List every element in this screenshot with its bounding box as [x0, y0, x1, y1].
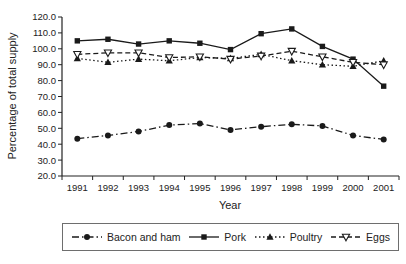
data-point-marker — [381, 136, 387, 142]
y-tick-label: 90.0 — [38, 59, 57, 70]
data-point-marker — [75, 38, 80, 43]
x-tick-label: 2000 — [342, 182, 363, 193]
x-tick-label: 1998 — [281, 182, 302, 193]
data-point-marker — [136, 41, 141, 46]
data-point-marker — [167, 38, 172, 43]
data-point-marker — [166, 55, 173, 62]
data-point-marker — [258, 124, 264, 130]
data-point-marker — [381, 83, 386, 88]
data-point-marker — [319, 123, 325, 129]
y-tick-label: 20.0 — [38, 170, 57, 181]
data-point-marker — [166, 122, 172, 128]
x-tick-label: 1993 — [128, 182, 149, 193]
legend-label: Bacon and ham — [107, 231, 181, 243]
data-point-marker — [289, 121, 295, 127]
series-bacon-and-ham — [74, 121, 386, 143]
data-point-marker — [258, 31, 263, 36]
legend-item-eggs: Eggs — [330, 231, 390, 243]
legend-swatch-dash-dot-line — [71, 231, 103, 243]
legend-item-pork: Pork — [188, 231, 246, 243]
x-tick-label: 1992 — [97, 182, 118, 193]
data-point-marker — [320, 44, 325, 49]
x-tick-label: 1997 — [251, 182, 272, 193]
y-tick-label: 50.0 — [38, 123, 57, 134]
x-axis-title: Year — [219, 199, 241, 211]
y-tick-label: 110.0 — [33, 27, 56, 38]
data-point-marker — [74, 136, 80, 142]
y-tick-label: 40.0 — [38, 139, 57, 150]
data-point-marker — [380, 62, 387, 69]
legend-label: Pork — [224, 231, 246, 243]
data-point-marker — [289, 26, 294, 31]
legend-swatch-dotted-line — [254, 231, 286, 243]
y-axis-title: Percentage of total supply — [6, 32, 18, 159]
data-point-marker — [136, 128, 142, 134]
legend-item-bacon-and-ham: Bacon and ham — [71, 231, 181, 243]
x-tick-label: 2001 — [373, 182, 394, 193]
legend: Bacon and hamPorkPoultryEggs — [62, 223, 399, 251]
x-tick-label: 1991 — [67, 182, 88, 193]
y-tick-label: 60.0 — [38, 107, 57, 118]
data-point-marker — [350, 132, 356, 138]
legend-item-poultry: Poultry — [254, 231, 323, 243]
data-point-marker — [228, 47, 233, 52]
y-tick-label: 120.0 — [32, 11, 56, 22]
x-tick-label: 1994 — [159, 182, 180, 193]
legend-label: Eggs — [366, 231, 390, 243]
legend-label: Poultry — [290, 231, 323, 243]
y-tick-label: 70.0 — [38, 91, 57, 102]
x-tick-label: 1999 — [312, 182, 333, 193]
chart: 120.0110.0100.090.080.070.060.050.040.03… — [0, 0, 406, 264]
data-point-marker — [228, 127, 234, 133]
y-tick-label: 100.0 — [32, 43, 56, 54]
data-point-marker — [105, 37, 110, 42]
x-tick-label: 1996 — [220, 182, 241, 193]
plot-area: 120.0110.0100.090.080.070.060.050.040.03… — [0, 0, 406, 220]
y-tick-label: 80.0 — [38, 75, 57, 86]
legend-swatch-solid-line — [188, 231, 220, 243]
y-tick-label: 30.0 — [38, 155, 57, 166]
data-point-marker — [197, 41, 202, 46]
data-point-marker — [197, 121, 203, 127]
data-point-marker — [105, 132, 111, 138]
legend-swatch-dashed-line — [330, 231, 362, 243]
x-tick-label: 1995 — [189, 182, 210, 193]
